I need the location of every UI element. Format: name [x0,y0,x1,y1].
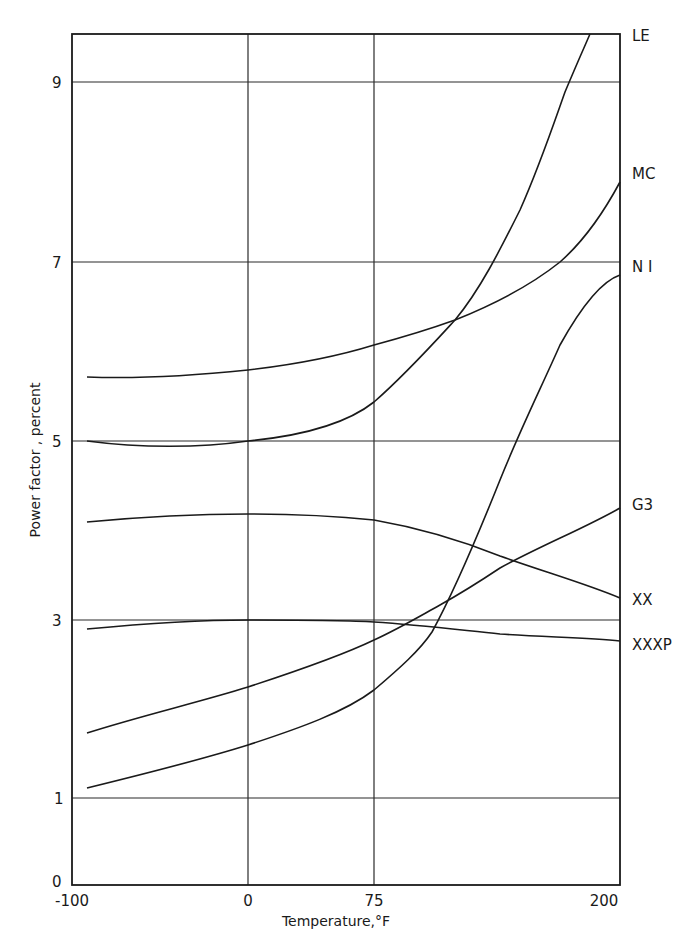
y-tick-labels: 9 7 5 3 1 0 [52,74,64,891]
horizontal-gridlines [72,82,620,798]
label-mc: MC [632,165,655,183]
curve-le [87,34,590,446]
label-ni: N I [632,258,652,276]
x-tick-m100: -100 [55,892,89,910]
y-tick-1: 1 [54,790,64,808]
y-tick-7: 7 [52,254,62,272]
y-tick-0: 0 [52,873,62,891]
power-factor-chart: LE MC N I G3 XX XXXP 9 7 5 3 1 0 -100 0 … [0,0,683,951]
vertical-gridlines [248,34,374,885]
y-axis-label: Power factor , percent [27,382,43,537]
y-tick-3: 3 [52,612,62,630]
x-tick-75: 75 [364,892,383,910]
series-curves [87,34,620,788]
curve-xxxp [87,620,620,641]
curve-mc [87,182,620,378]
label-xxxp: XXXP [632,636,672,654]
curve-xx [87,514,620,598]
x-tick-labels: -100 0 75 200 [55,892,618,910]
y-tick-5: 5 [52,433,62,451]
curve-ni [87,275,620,788]
label-g3: G3 [632,496,653,514]
x-axis-label: Temperature,°F [281,913,390,929]
series-labels: LE MC N I G3 XX XXXP [632,27,672,654]
label-xx: XX [632,591,653,609]
plot-frame [72,34,620,885]
x-tick-200: 200 [590,892,619,910]
figure-caption-cutoff [0,940,683,951]
x-tick-0: 0 [243,892,253,910]
y-tick-9: 9 [52,74,62,92]
label-le: LE [632,27,650,45]
